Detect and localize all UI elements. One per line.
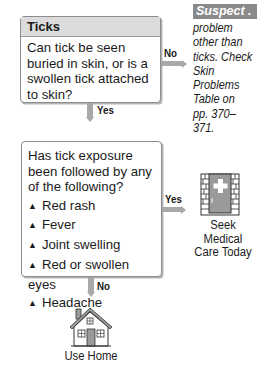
yes-connector <box>87 103 93 117</box>
no-label: No <box>164 47 177 59</box>
arrow-down-icon <box>87 292 95 297</box>
yes-label: Yes <box>97 104 114 116</box>
symptoms-question-box: Has tick exposure been followed by any o… <box>21 141 162 277</box>
arrow-down-icon <box>86 117 94 122</box>
triangle-bullet-icon: ▲ <box>28 240 37 250</box>
symptom-item: ▲Joint swelling <box>28 236 155 256</box>
symptom-item: ▲Fever <box>28 216 155 236</box>
suspect-text: problem other than ticks. Check Skin Pro… <box>193 21 253 135</box>
use-home-caption: Use Home <box>58 350 125 364</box>
hospital-door-icon <box>200 173 240 216</box>
triangle-bullet-icon: ▲ <box>28 220 37 230</box>
triangle-bullet-icon: ▲ <box>28 260 37 270</box>
no-connector <box>88 277 94 292</box>
arrow-right-icon <box>182 60 187 68</box>
question-text: Can tick be seen buried in skin, or is a… <box>21 37 160 106</box>
yes-label: Yes <box>165 193 182 205</box>
house-icon <box>68 305 114 348</box>
seek-medical-care-caption: Seek Medical Care Today <box>192 219 255 260</box>
symptom-item: ▲Red rash <box>28 197 155 217</box>
suspect-title: Suspect . . . <box>193 4 257 19</box>
triangle-bullet-icon: ▲ <box>28 298 37 308</box>
box-title: Ticks <box>21 17 160 37</box>
ticks-question-box: Ticks Can tick be seen buried in skin, o… <box>20 16 161 103</box>
question-text: Has tick exposure been followed by any o… <box>22 142 161 197</box>
no-label: No <box>97 280 110 292</box>
no-connector <box>161 61 182 66</box>
arrow-right-icon <box>181 206 186 214</box>
yes-connector <box>162 207 181 212</box>
triangle-bullet-icon: ▲ <box>28 201 37 211</box>
